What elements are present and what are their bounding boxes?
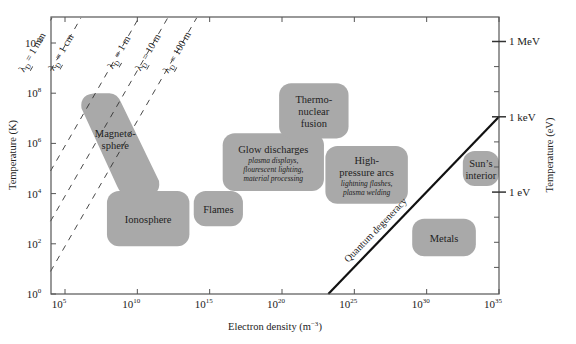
region-label: Glow discharges: [238, 144, 308, 155]
debye-length-line: [0, 0, 51, 18]
x-axis-title: Electron density (m−3): [228, 320, 322, 333]
region-label: fusion: [301, 118, 328, 129]
region-sublabel: plasma welding: [342, 188, 391, 197]
y-tick-label: 106: [27, 136, 42, 149]
y-tick-label: 102: [27, 237, 42, 250]
region-thermonuclear-fusion: Thermo-nuclearfusion: [279, 83, 348, 138]
region-label: Thermo-: [295, 94, 332, 105]
region-sublabel: material processing: [244, 174, 304, 183]
y-tick-label: 100: [27, 287, 42, 300]
y-tick-label: 104: [27, 187, 42, 200]
region-ionosphere: Ionosphere: [107, 191, 189, 246]
region-label: Metals: [430, 233, 459, 244]
debye-length-label: λD = 1 m: [105, 34, 135, 72]
y-axis-title-right: Temperature (eV): [544, 117, 556, 192]
region-sublabel: flourescent lighting,: [243, 165, 303, 174]
region-sun-s-interior: Sun’sinterior: [463, 151, 499, 186]
y-tick-right-label: 1 eV: [509, 186, 530, 198]
x-tick-label: 1010: [122, 297, 141, 310]
region-label: High-: [354, 155, 379, 166]
y-tick-right-label: 1 keV: [509, 111, 536, 123]
quantum-degeneracy-label: Quantum degeneracy: [342, 195, 409, 264]
region-sublabel: plasma displays,: [247, 156, 298, 165]
region-label: Sun’s: [469, 158, 492, 169]
region-sublabel: lightning flashes,: [341, 179, 393, 188]
region-shape: [463, 151, 499, 186]
x-tick-label: 105: [52, 297, 67, 310]
region-glow-discharges: Glow dischargesplasma displays,flouresce…: [223, 133, 324, 191]
region-label: Flames: [203, 204, 233, 215]
region-flames: Flames: [194, 191, 243, 226]
region-high-pressure-arcs: High-pressure arcslightning flashes,plas…: [325, 146, 407, 204]
region-label: pressure arcs: [339, 167, 394, 178]
region-metals: Metals: [412, 219, 476, 257]
region-label: interior: [465, 170, 496, 181]
region-label: nuclear: [298, 106, 329, 117]
region-label: Ionosphere: [125, 214, 172, 225]
plasma-density-temperature-diagram: Magneto-sphereIonosphereFlamesGlow disch…: [0, 0, 576, 344]
debye-length-label: λD = 100 m: [160, 29, 195, 76]
quantum-degeneracy-layer: Quantum degeneracy: [328, 117, 499, 294]
x-tick-label: 1035: [484, 297, 503, 310]
x-tick-label: 1030: [412, 297, 431, 310]
x-tick-label: 1025: [339, 297, 358, 310]
region-magnetosphere: Magneto-sphere: [81, 93, 159, 196]
quantum-degeneracy-line: [328, 117, 499, 294]
x-tick-label: 1020: [267, 297, 286, 310]
y-tick-label: 108: [27, 86, 42, 99]
y-axis-title-left: Temperature (K): [7, 119, 19, 190]
regions-layer: Magneto-sphereIonosphereFlamesGlow disch…: [81, 83, 499, 256]
x-tick-label: 1015: [195, 297, 214, 310]
y-tick-right-label: 1 MeV: [509, 35, 540, 47]
